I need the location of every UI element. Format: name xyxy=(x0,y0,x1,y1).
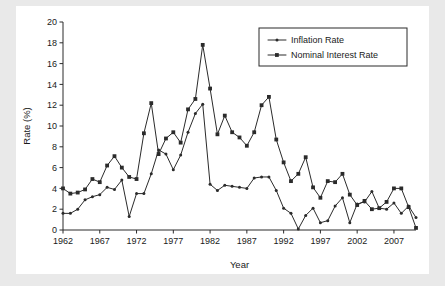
square-marker xyxy=(120,166,124,170)
y-axis-ticks: 02468101214161820 xyxy=(47,17,63,235)
square-marker xyxy=(326,179,330,183)
diamond-marker xyxy=(238,186,241,189)
diamond-marker xyxy=(348,221,351,224)
square-marker xyxy=(179,141,183,145)
diamond-marker xyxy=(276,39,279,42)
square-marker xyxy=(399,187,403,191)
y-tick-label: 12 xyxy=(47,100,57,110)
chart-legend: Inflation RateNominal Interest Rate xyxy=(259,28,407,66)
square-marker xyxy=(275,53,279,57)
y-tick-label: 16 xyxy=(47,59,57,69)
diamond-marker xyxy=(69,212,72,215)
diamond-marker xyxy=(385,208,388,211)
square-marker xyxy=(282,161,286,165)
diamond-marker xyxy=(275,189,278,192)
square-marker xyxy=(348,193,352,197)
y-tick-label: 4 xyxy=(52,184,57,194)
diamond-marker xyxy=(128,215,131,218)
square-marker xyxy=(385,200,389,204)
diamond-marker xyxy=(319,221,322,224)
series-nominal-interest-rate xyxy=(61,43,418,230)
y-axis-title: Rate (%) xyxy=(21,107,32,144)
diamond-marker xyxy=(209,183,212,186)
y-tick-label: 2 xyxy=(52,204,57,214)
square-marker xyxy=(135,177,139,181)
diamond-marker xyxy=(91,195,94,198)
series-inflation-rate xyxy=(62,103,418,231)
x-axis-title: Year xyxy=(230,259,249,270)
diamond-marker xyxy=(62,212,65,215)
diamond-marker xyxy=(172,168,175,171)
square-marker xyxy=(105,164,109,168)
x-tick-label: 2002 xyxy=(347,236,367,246)
diamond-marker xyxy=(334,205,337,208)
y-tick-label: 0 xyxy=(52,225,57,235)
square-marker xyxy=(392,187,396,191)
diamond-marker xyxy=(179,154,182,157)
diamond-marker xyxy=(304,214,307,217)
x-tick-label: 2007 xyxy=(384,236,404,246)
diamond-marker xyxy=(216,189,219,192)
diamond-marker xyxy=(245,187,248,190)
square-marker xyxy=(377,206,381,210)
diamond-marker xyxy=(120,179,123,182)
x-tick-label: 1982 xyxy=(200,236,220,246)
square-marker xyxy=(341,172,345,176)
square-marker xyxy=(127,175,131,179)
chart-panel: 02468101214161820 1962196719721977198219… xyxy=(16,6,429,274)
square-marker xyxy=(193,97,197,101)
diamond-marker xyxy=(312,207,315,210)
diamond-marker xyxy=(370,190,373,193)
diamond-marker xyxy=(267,175,270,178)
square-marker xyxy=(245,144,249,148)
diamond-marker xyxy=(194,112,197,115)
square-marker xyxy=(216,132,220,136)
y-tick-label: 14 xyxy=(47,80,57,90)
square-marker xyxy=(304,155,308,159)
square-marker xyxy=(238,136,242,140)
diamond-marker xyxy=(282,207,285,210)
legend-box xyxy=(259,28,407,66)
square-marker xyxy=(208,87,212,91)
diamond-marker xyxy=(400,212,403,215)
diamond-marker xyxy=(260,175,263,178)
square-marker xyxy=(260,103,264,107)
square-marker xyxy=(98,180,102,184)
diamond-marker xyxy=(341,196,344,199)
diamond-marker xyxy=(415,216,418,219)
diamond-marker xyxy=(150,172,153,175)
square-marker xyxy=(333,180,337,184)
x-tick-label: 1992 xyxy=(274,236,294,246)
diamond-marker xyxy=(76,208,79,211)
square-marker xyxy=(149,101,153,105)
diamond-marker xyxy=(98,193,101,196)
x-tick-label: 1997 xyxy=(310,236,330,246)
square-marker xyxy=(311,185,315,189)
x-tick-label: 1972 xyxy=(127,236,147,246)
square-marker xyxy=(83,188,87,192)
square-marker xyxy=(414,226,418,230)
diamond-marker xyxy=(135,192,138,195)
square-marker xyxy=(296,172,300,176)
square-marker xyxy=(274,138,278,142)
diamond-marker xyxy=(253,177,256,180)
y-tick-label: 10 xyxy=(47,121,57,131)
square-marker xyxy=(370,207,374,211)
square-marker xyxy=(113,154,117,158)
x-axis-ticks: 1962196719721977198219871992199720022007 xyxy=(53,230,404,246)
y-tick-label: 8 xyxy=(52,142,57,152)
square-marker xyxy=(76,191,80,195)
y-tick-label: 18 xyxy=(47,38,57,48)
diamond-marker xyxy=(164,153,167,156)
square-marker xyxy=(68,192,72,196)
square-marker xyxy=(61,187,65,191)
square-marker xyxy=(267,95,271,99)
legend-label: Inflation Rate xyxy=(291,35,344,45)
square-marker xyxy=(164,137,168,141)
series-group xyxy=(61,43,418,230)
diamond-marker xyxy=(231,185,234,188)
x-tick-label: 1967 xyxy=(90,236,110,246)
figure-root: 02468101214161820 1962196719721977198219… xyxy=(0,0,445,286)
square-marker xyxy=(171,130,175,134)
line-chart: 02468101214161820 1962196719721977198219… xyxy=(16,6,429,274)
